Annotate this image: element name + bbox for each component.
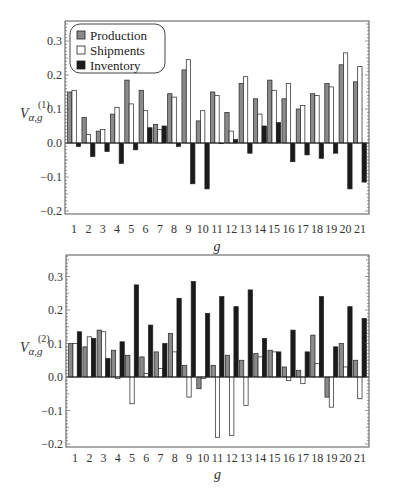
x-tick-label: 5 bbox=[129, 451, 135, 465]
x-tick-label: 20 bbox=[340, 451, 352, 465]
bar-shipments bbox=[86, 135, 90, 144]
bar-production bbox=[311, 94, 315, 143]
bar-production bbox=[325, 377, 329, 397]
x-tick-label: 13 bbox=[240, 451, 252, 465]
bar-production bbox=[140, 357, 144, 377]
legend-label-inventory: Inventory bbox=[90, 58, 141, 73]
bar-inventory bbox=[262, 126, 266, 143]
bar-production bbox=[197, 377, 201, 389]
bar-inventory bbox=[162, 126, 166, 143]
bar-production bbox=[353, 82, 357, 143]
x-tick-label: 16 bbox=[282, 222, 294, 236]
y-tick-label: 0.0 bbox=[47, 136, 62, 150]
bar-inventory bbox=[333, 143, 337, 153]
bar-group bbox=[68, 90, 81, 146]
bar-shipments bbox=[129, 104, 133, 143]
x-axis-title: g bbox=[214, 467, 221, 482]
bar-inventory bbox=[305, 352, 309, 377]
bar-shipments bbox=[229, 131, 233, 143]
bar-group bbox=[254, 338, 267, 377]
bar-production bbox=[97, 330, 101, 377]
bar-shipments bbox=[315, 95, 319, 143]
bar-production bbox=[282, 367, 286, 377]
y-tick-label: 0.2 bbox=[48, 303, 63, 317]
bar-production bbox=[182, 70, 186, 143]
y-tick-label: −0.2 bbox=[41, 437, 63, 451]
bar-shipments bbox=[101, 129, 105, 143]
x-tick-label: 19 bbox=[325, 451, 337, 465]
y-tick-label: −0.1 bbox=[41, 404, 63, 418]
bar-group bbox=[82, 118, 95, 157]
x-tick-label: 15 bbox=[269, 451, 281, 465]
bar-production bbox=[211, 92, 215, 143]
bar-shipments bbox=[258, 357, 262, 377]
bar-shipments bbox=[144, 374, 148, 377]
bar-inventory bbox=[177, 298, 181, 377]
y-tick-label: 0.1 bbox=[48, 337, 63, 351]
bar-inventory bbox=[191, 143, 195, 184]
bar-group bbox=[253, 99, 266, 143]
bar-group bbox=[211, 92, 224, 144]
bar-group bbox=[282, 330, 295, 380]
bars bbox=[69, 282, 367, 438]
bar-production bbox=[183, 365, 187, 377]
bar-inventory bbox=[334, 347, 338, 377]
bar-shipments bbox=[358, 377, 362, 399]
bar-production bbox=[254, 354, 258, 377]
bar-inventory bbox=[220, 297, 224, 377]
bar-shipments bbox=[301, 106, 305, 143]
bar-inventory bbox=[362, 143, 366, 182]
bar-shipments bbox=[172, 97, 176, 143]
bar-inventory bbox=[134, 285, 138, 377]
bar-shipments bbox=[329, 87, 333, 143]
bar-shipments bbox=[87, 337, 91, 377]
chart-panel-bottom: −0.2−0.10.00.10.20.312345678910111213141… bbox=[20, 255, 369, 482]
bar-inventory bbox=[319, 143, 323, 158]
bar-production bbox=[154, 352, 158, 377]
x-tick-label: 6 bbox=[143, 451, 149, 465]
bar-inventory bbox=[77, 332, 81, 377]
bar-inventory bbox=[91, 143, 95, 157]
y-tick-label: 0.3 bbox=[48, 270, 63, 284]
x-tick-label: 4 bbox=[114, 222, 120, 236]
bar-inventory bbox=[106, 359, 110, 377]
bar-shipments bbox=[186, 60, 190, 143]
bar-inventory bbox=[105, 143, 109, 152]
legend-label-shipments: Shipments bbox=[90, 43, 145, 58]
bar-production bbox=[82, 118, 86, 144]
bar-production bbox=[239, 84, 243, 144]
bar-inventory bbox=[276, 123, 280, 143]
bar-group bbox=[268, 350, 281, 377]
x-tick-label: 12 bbox=[226, 451, 238, 465]
x-tick-label: 7 bbox=[158, 451, 164, 465]
bar-production bbox=[325, 84, 329, 144]
bar-shipments bbox=[230, 377, 234, 436]
x-tick-label: 11 bbox=[211, 222, 223, 236]
bar-shipments bbox=[158, 129, 162, 143]
bar-group bbox=[168, 94, 181, 147]
x-tick-label: 17 bbox=[297, 451, 309, 465]
bar-production bbox=[240, 360, 244, 377]
bar-production bbox=[225, 355, 229, 377]
x-tick-label: 2 bbox=[86, 451, 92, 465]
bar-inventory bbox=[248, 290, 252, 377]
bar-production bbox=[168, 333, 172, 377]
bar-production bbox=[268, 350, 272, 377]
x-tick-label: 19 bbox=[325, 222, 337, 236]
y-axis-title-superscript: (1) bbox=[38, 99, 50, 111]
bar-production bbox=[353, 360, 357, 377]
x-tick-label: 21 bbox=[354, 451, 366, 465]
x-tick-label: 14 bbox=[254, 222, 266, 236]
bar-inventory bbox=[92, 338, 96, 377]
bar-inventory bbox=[120, 342, 124, 377]
bar-production bbox=[126, 355, 130, 377]
bar-inventory bbox=[248, 143, 252, 153]
bar-group bbox=[239, 77, 252, 154]
bar-production bbox=[339, 344, 343, 378]
bar-production bbox=[139, 90, 143, 143]
bar-production bbox=[125, 80, 129, 143]
bar-group bbox=[353, 67, 366, 183]
bar-shipments bbox=[343, 367, 347, 377]
bar-shipments bbox=[158, 369, 162, 377]
bar-production bbox=[111, 114, 115, 143]
